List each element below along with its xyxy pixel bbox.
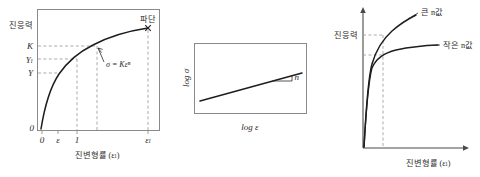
- left-ytick-label-Yf: Yₗ: [26, 55, 33, 65]
- right-label-small-n: 작은 n값: [443, 40, 473, 50]
- right-x-axis-label: 진변형률 (εₗ): [406, 158, 451, 168]
- left-xtick-label-eps: ε: [56, 135, 60, 145]
- middle-plot-border: [195, 44, 307, 114]
- left-ytick-label-0: 0: [30, 123, 35, 133]
- left-xtick-label-0: 0: [40, 135, 45, 145]
- left-x-axis-label: 진변형률 (εₗ): [75, 150, 120, 160]
- left-ytick-label-K: K: [26, 41, 34, 51]
- left-curve-power-law: [41, 28, 148, 129]
- panel-left-true-stress-strain: K Yₗ Y 0 0 ε 1 εₗ 진응력 진변형률 (εₗ) σ = Kεⁿ …: [9, 10, 160, 161]
- right-curve-large-n: [364, 15, 416, 147]
- equation-leader-line: [98, 48, 104, 62]
- left-ytick-label-Y: Y: [28, 68, 34, 78]
- middle-y-axis-label: log σ: [181, 68, 191, 87]
- right-leader-large-n: [408, 13, 418, 19]
- fracture-label: 파단: [140, 14, 156, 24]
- right-leader-small-n: [430, 45, 440, 46]
- left-plot-border: [38, 10, 160, 131]
- middle-curve-slope-line: [200, 73, 302, 101]
- left-xtick-label-1: 1: [75, 135, 80, 145]
- left-y-axis-label: 진응력: [9, 20, 33, 30]
- right-y-axis-arrow: [360, 7, 366, 13]
- panel-middle-log-log: n log σ log ε: [181, 44, 307, 133]
- middle-x-axis-label: log ε: [241, 122, 259, 132]
- panel-right-n-comparison: 큰 n값 작은 n값 진응력 진변형률 (εₗ): [334, 7, 473, 168]
- right-x-axis-arrow: [463, 145, 469, 151]
- middle-slope-label: n: [295, 72, 300, 82]
- right-y-axis-label: 진응력: [334, 30, 358, 40]
- right-curve-small-n: [364, 45, 438, 147]
- left-equation-label: σ = Kεⁿ: [106, 60, 131, 69]
- figure-container: K Yₗ Y 0 0 ε 1 εₗ 진응력 진변형률 (εₗ) σ = Kεⁿ …: [0, 0, 480, 177]
- left-xtick-label-epsf: εₗ: [145, 135, 151, 145]
- right-label-large-n: 큰 n값: [421, 7, 443, 17]
